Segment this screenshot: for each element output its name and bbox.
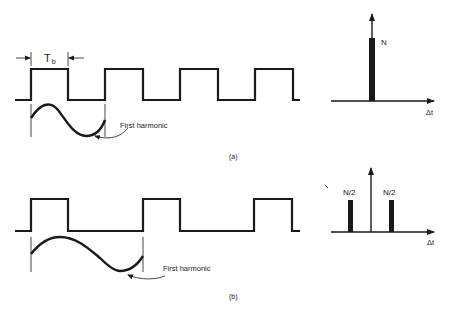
stray-tick-mark [325, 185, 328, 188]
square-wave-b [15, 199, 300, 231]
square-wave-a [15, 69, 300, 100]
axis-label-dt-a: Δt [426, 108, 434, 117]
caption-a: (a) [229, 153, 238, 161]
spectrum-bar-left [348, 200, 353, 232]
figure-canvas: Tb First harmonic (a) N Δt [0, 0, 452, 314]
first-harmonic-curve-b [31, 237, 143, 271]
spectrum-b: N/2 N/2 Δt [325, 168, 435, 247]
harmonic-leader-arrow-b-icon [128, 275, 165, 279]
spectrum-a: N Δt [331, 14, 434, 117]
spectrum-bar-n [369, 38, 375, 101]
panel-b: First harmonic (b) N/2 N/2 Δt [15, 168, 435, 301]
axis-label-dt-b: Δt [427, 238, 435, 247]
panel-a: Tb First harmonic (a) N Δt [15, 14, 434, 161]
spectrum-bar-right [389, 200, 394, 232]
harmonic-label-b: First harmonic [163, 264, 211, 273]
bar-label-n: N [381, 38, 387, 47]
bar-label-right: N/2 [383, 188, 396, 197]
period-label: Tb [44, 52, 56, 65]
first-harmonic-curve-a [31, 104, 105, 136]
harmonic-label-a: First harmonic [120, 121, 168, 130]
caption-b: (b) [229, 293, 238, 301]
bar-label-left: N/2 [343, 188, 356, 197]
period-dimension: Tb [16, 52, 84, 66]
